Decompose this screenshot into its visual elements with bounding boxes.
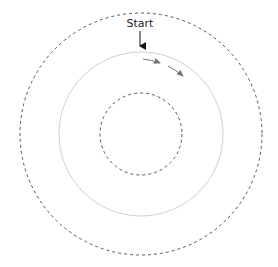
direction-arrow-2 [168, 66, 183, 76]
start-label: Start [127, 17, 155, 30]
outer-dashed-circle [20, 13, 262, 255]
inner-dashed-circle [100, 93, 182, 175]
direction-arrow-1 [143, 59, 160, 63]
diagram-canvas: Start [0, 0, 278, 267]
middle-solid-circle [59, 52, 223, 216]
